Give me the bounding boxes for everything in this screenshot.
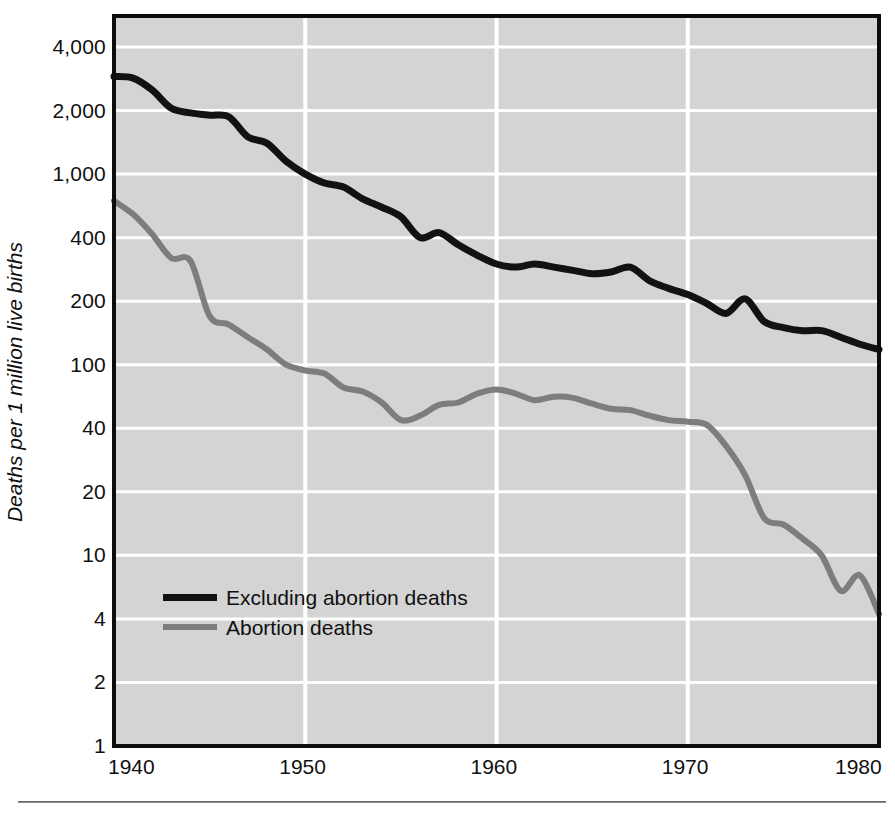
chart-plot-area — [0, 0, 895, 814]
legend-item-abortion-deaths: Abortion deaths — [163, 612, 523, 642]
legend-swatch-abortion-deaths — [163, 624, 217, 630]
legend-label-abortion-deaths: Abortion deaths — [226, 617, 373, 638]
x-axis-tick-label: 1980 — [835, 756, 882, 777]
x-axis-tick-label: 1940 — [108, 756, 155, 777]
legend-item-excluding-abortion-deaths: Excluding abortion deaths — [163, 582, 523, 612]
chart-figure: 4,0002,0001,000400200100402010421 Deaths… — [0, 0, 895, 814]
chart-legend: Excluding abortion deaths Abortion death… — [163, 582, 523, 642]
x-axis-tick-label: 1950 — [279, 756, 326, 777]
footer-divider-rule-highlight — [18, 801, 886, 802]
y-axis-tick-label: 2,000 — [6, 100, 106, 121]
x-axis-tick-label: 1970 — [662, 756, 709, 777]
y-axis-title: Deaths per 1 million live births — [3, 122, 27, 642]
legend-label-excluding-abortion-deaths: Excluding abortion deaths — [226, 587, 468, 608]
legend-swatch-excluding-abortion-deaths — [163, 594, 217, 601]
y-axis-tick-label: 1 — [6, 735, 106, 756]
y-axis-tick-label: 4,000 — [6, 36, 106, 57]
x-axis-tick-label: 1960 — [471, 756, 518, 777]
x-axis-tick-labels: 19401950196019701980 — [0, 756, 895, 790]
y-axis-tick-label: 2 — [6, 671, 106, 692]
